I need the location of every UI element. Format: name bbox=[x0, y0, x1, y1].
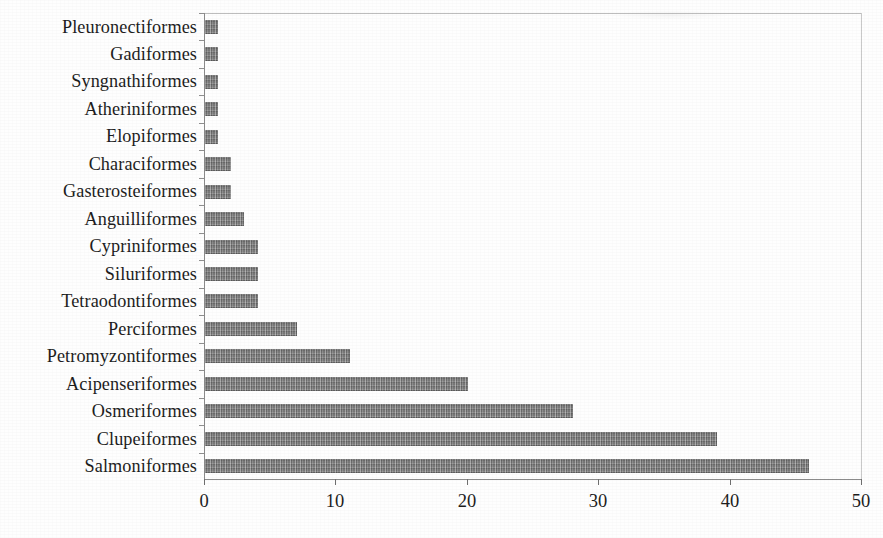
category-label: Atheriniformes bbox=[0, 100, 197, 118]
category-label: Pleuronectiformes bbox=[0, 18, 197, 36]
bar bbox=[205, 102, 218, 116]
x-axis-tick-label: 0 bbox=[199, 492, 208, 511]
x-axis-tick bbox=[204, 479, 205, 485]
y-axis-tick bbox=[199, 425, 204, 426]
bar bbox=[205, 75, 218, 89]
x-axis-tick-label: 30 bbox=[589, 492, 608, 511]
bar bbox=[205, 294, 258, 308]
y-axis-tick bbox=[199, 150, 204, 151]
bar bbox=[205, 157, 231, 171]
y-axis-tick bbox=[199, 123, 204, 124]
x-axis-tick-label: 10 bbox=[326, 492, 345, 511]
bar bbox=[205, 47, 218, 61]
category-label: Characiformes bbox=[0, 155, 197, 173]
y-axis-tick bbox=[199, 315, 204, 316]
plot-area: 01020304050 bbox=[204, 13, 861, 480]
y-axis-tick bbox=[199, 370, 204, 371]
category-label: Siluriformes bbox=[0, 265, 197, 283]
x-axis-tick bbox=[861, 479, 862, 485]
category-label: Gadiformes bbox=[0, 45, 197, 63]
category-label: Cypriniformes bbox=[0, 237, 197, 255]
x-axis-tick bbox=[335, 479, 336, 485]
y-axis-tick bbox=[199, 260, 204, 261]
bar bbox=[205, 349, 350, 363]
y-axis-tick bbox=[199, 398, 204, 399]
category-label: Acipenseriformes bbox=[0, 375, 197, 393]
x-axis-tick-label: 50 bbox=[852, 492, 871, 511]
y-axis-tick bbox=[199, 453, 204, 454]
category-label: Anguilliformes bbox=[0, 210, 197, 228]
x-axis-tick-label: 40 bbox=[721, 492, 740, 511]
bar bbox=[205, 377, 468, 391]
plot-top-border bbox=[204, 13, 862, 14]
x-axis-tick bbox=[598, 479, 599, 485]
y-axis-tick bbox=[199, 40, 204, 41]
x-axis-line bbox=[204, 479, 862, 480]
y-axis-tick bbox=[199, 68, 204, 69]
bar bbox=[205, 322, 297, 336]
y-axis-tick bbox=[199, 205, 204, 206]
bar bbox=[205, 185, 231, 199]
bar bbox=[205, 130, 218, 144]
y-axis-tick bbox=[199, 95, 204, 96]
category-label: Salmoniformes bbox=[0, 457, 197, 475]
bar bbox=[205, 20, 218, 34]
y-axis-tick bbox=[199, 13, 204, 14]
bar bbox=[205, 212, 244, 226]
plot-right-border bbox=[861, 13, 862, 480]
x-axis-tick bbox=[730, 479, 731, 485]
category-label: Petromyzontiformes bbox=[0, 347, 197, 365]
bar bbox=[205, 267, 258, 281]
category-label: Elopiformes bbox=[0, 127, 197, 145]
bar bbox=[205, 404, 573, 418]
bar-chart: PleuronectiformesGadiformesSyngnathiform… bbox=[0, 0, 883, 538]
y-axis-tick bbox=[199, 178, 204, 179]
y-axis-tick bbox=[199, 288, 204, 289]
category-label: Syngnathiformes bbox=[0, 72, 197, 90]
category-label: Clupeiformes bbox=[0, 430, 197, 448]
category-label: Tetraodontiformes bbox=[0, 292, 197, 310]
y-axis-tick bbox=[199, 343, 204, 344]
category-label: Perciformes bbox=[0, 320, 197, 338]
bar bbox=[205, 432, 717, 446]
category-label: Osmeriformes bbox=[0, 402, 197, 420]
category-label: Gasterosteiformes bbox=[0, 182, 197, 200]
bar bbox=[205, 459, 809, 473]
bar bbox=[205, 240, 258, 254]
x-axis-tick bbox=[467, 479, 468, 485]
y-axis-tick bbox=[199, 233, 204, 234]
x-axis-tick-label: 20 bbox=[458, 492, 477, 511]
category-axis-labels: PleuronectiformesGadiformesSyngnathiform… bbox=[0, 13, 197, 480]
